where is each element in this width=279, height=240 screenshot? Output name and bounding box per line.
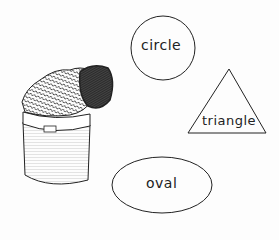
circle-label: circle <box>141 37 181 53</box>
triangle-label: triangle <box>202 113 256 128</box>
can-illustration <box>22 66 113 184</box>
oval-label: oval <box>146 175 177 191</box>
